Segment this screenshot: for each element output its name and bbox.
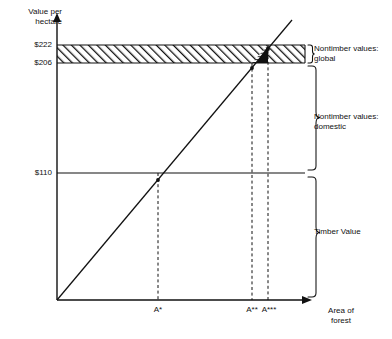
x-tick-label-a-star: A* (143, 305, 173, 315)
annotation-nontimber-domestic: Nontimber values: domestic (314, 112, 390, 131)
y-tick-label-222: $222 (10, 40, 52, 50)
annotation-timber-value: Timber Value (314, 227, 390, 237)
x-axis-title: Area of forest (312, 306, 370, 325)
y-axis-title: Value per hectare (4, 7, 62, 26)
annotation-nontimber-global: Nontimber values: global (314, 44, 390, 63)
y-tick-label-110: $110 (10, 168, 52, 178)
y-tick-label-206: $206 (10, 58, 52, 68)
chart-figure: Value per hectare Area of forest $222 $2… (0, 0, 392, 339)
x-tick-label-a-triple-star: A*** (254, 305, 284, 315)
